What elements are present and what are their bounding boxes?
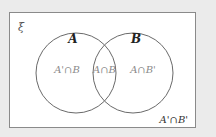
universal-symbol: ξ (18, 21, 25, 34)
region-intersection: A∩B (92, 64, 116, 75)
set-b-label: B (130, 32, 141, 46)
region-a-only: A'∩B (53, 64, 80, 75)
region-outside: A'∩B' (159, 114, 188, 125)
set-a-label: A (67, 32, 77, 46)
region-b-only: A∩B' (129, 64, 156, 75)
venn-diagram: ξ A B A'∩B A∩B A∩B' A'∩B' (0, 0, 216, 137)
